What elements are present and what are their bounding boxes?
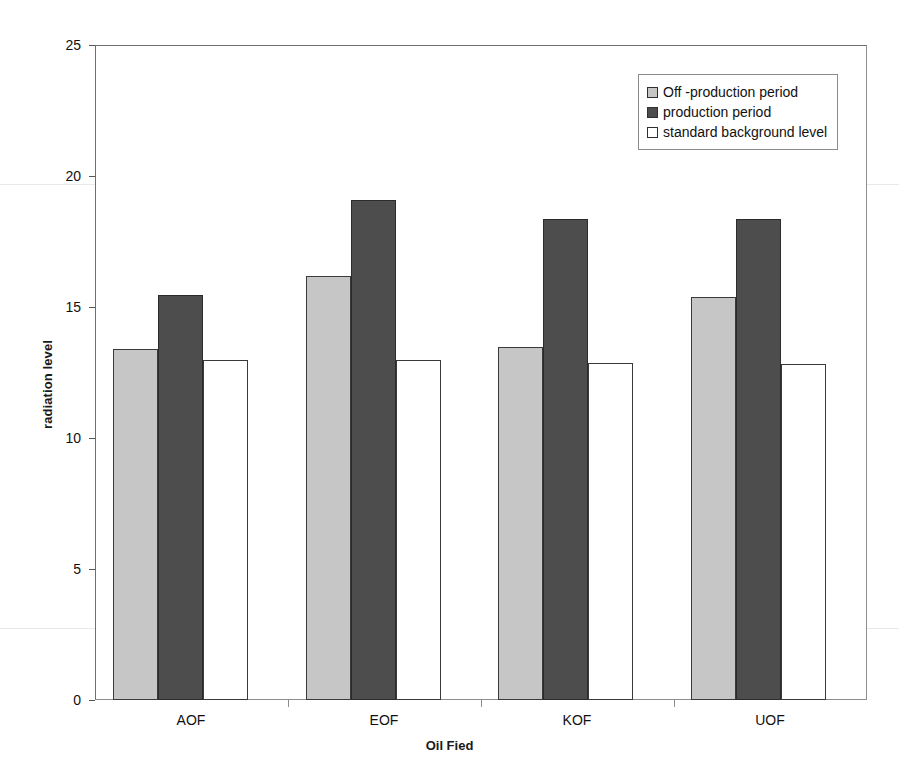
legend-item-production: production period — [647, 102, 827, 122]
bar-aof-series-0 — [113, 349, 158, 700]
y-tick-label-20: 20 — [37, 169, 81, 183]
bar-kof-series-0 — [498, 347, 543, 700]
bar-uof-series-0 — [691, 297, 736, 700]
legend-label: standard background level — [663, 125, 827, 140]
y-tick-label-5: 5 — [37, 562, 81, 576]
bar-eof-series-1 — [351, 200, 396, 700]
legend-label: Off -production period — [663, 85, 798, 100]
x-tick-label-aof: AOF — [101, 712, 281, 728]
y-tick-label-0: 0 — [37, 693, 81, 707]
x-tick-label-kof: KOF — [487, 712, 667, 728]
legend: Off -production period production period… — [638, 74, 838, 150]
bar-aof-series-2 — [203, 360, 248, 700]
y-tick-label-25: 25 — [37, 38, 81, 52]
bar-uof-series-2 — [781, 364, 826, 700]
y-tick-label-15: 15 — [37, 300, 81, 314]
x-axis-separator — [481, 700, 482, 707]
dark-gray-swatch-icon — [647, 107, 658, 118]
legend-item-off-production: Off -production period — [647, 82, 827, 102]
x-tick-label-eof: EOF — [294, 712, 474, 728]
legend-label: production period — [663, 105, 771, 120]
bar-eof-series-2 — [396, 360, 441, 700]
x-axis-title: Oil Fied — [0, 738, 899, 753]
light-gray-swatch-icon — [647, 87, 658, 98]
bar-chart: radiation level 25 20 15 10 5 0 AOF EOF … — [0, 0, 899, 779]
x-tick-label-uof: UOF — [680, 712, 860, 728]
x-axis-separator — [288, 700, 289, 707]
bar-eof-series-0 — [306, 276, 351, 700]
x-axis-separator — [674, 700, 675, 707]
white-swatch-icon — [647, 127, 658, 138]
y-tick-mark — [89, 700, 95, 701]
bar-kof-series-1 — [543, 219, 588, 700]
y-tick-label-10: 10 — [37, 431, 81, 445]
bar-aof-series-1 — [158, 295, 203, 700]
bar-kof-series-2 — [588, 363, 633, 700]
bar-uof-series-1 — [736, 219, 781, 700]
legend-item-standard-background: standard background level — [647, 122, 827, 142]
